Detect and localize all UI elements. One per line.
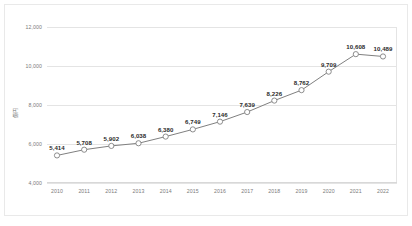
line-series — [47, 27, 397, 183]
data-point-marker — [217, 119, 222, 124]
data-point-label: 8,226 — [267, 90, 283, 97]
data-point-marker — [109, 143, 114, 148]
data-point-marker — [54, 153, 59, 158]
y-tick-label: 6,000 — [29, 141, 42, 147]
x-tick-label: 2015 — [187, 188, 199, 194]
x-tick-label: 2012 — [105, 188, 117, 194]
data-point-label: 6,380 — [158, 126, 174, 133]
data-point-marker — [353, 52, 358, 57]
data-point-marker — [380, 54, 385, 59]
x-tick-label: 2014 — [160, 188, 172, 194]
data-point-marker — [82, 147, 87, 152]
x-tick-label: 2018 — [268, 188, 280, 194]
y-tick-label: 10,000 — [26, 63, 42, 69]
y-tick-label: 8,000 — [29, 102, 42, 108]
y-tick-label: 12,000 — [26, 24, 42, 30]
data-point-label: 9,709 — [321, 61, 337, 68]
x-tick-label: 2019 — [296, 188, 308, 194]
data-point-marker — [163, 134, 168, 139]
x-tick-label: 2020 — [323, 188, 335, 194]
plot-area: 4,0006,0008,00010,00012,000 5,4145,7085,… — [47, 27, 397, 183]
x-axis-ticks: 2010201120122013201420152016201720182019… — [47, 186, 397, 200]
x-tick-label: 2021 — [350, 188, 362, 194]
x-tick-label: 2016 — [214, 188, 226, 194]
data-point-label: 7,639 — [239, 101, 255, 108]
x-tick-label: 2010 — [51, 188, 63, 194]
gridline — [47, 183, 397, 184]
x-tick-label: 2017 — [241, 188, 253, 194]
x-tick-label: 2022 — [377, 188, 389, 194]
data-point-label: 7,146 — [212, 111, 228, 118]
data-point-label: 10,608 — [346, 43, 365, 50]
data-point-marker — [272, 98, 277, 103]
data-point-label: 5,902 — [104, 135, 120, 142]
data-point-label: 6,038 — [131, 132, 147, 139]
data-point-marker — [299, 88, 304, 93]
chart-figure: 億円 4,0006,0008,00010,00012,000 5,4145,70… — [0, 0, 412, 226]
x-tick-label: 2011 — [78, 188, 90, 194]
data-point-label: 6,749 — [185, 118, 201, 125]
data-point-marker — [245, 109, 250, 114]
data-point-label: 10,489 — [374, 45, 393, 52]
data-point-label: 5,414 — [49, 144, 65, 151]
x-tick-label: 2013 — [133, 188, 145, 194]
y-tick-label: 4,000 — [29, 180, 42, 186]
data-point-marker — [326, 69, 331, 74]
data-point-label: 5,708 — [76, 139, 92, 146]
data-point-label: 8,762 — [294, 79, 310, 86]
y-axis-title: 億円 — [11, 108, 18, 119]
data-point-marker — [190, 127, 195, 132]
data-point-marker — [136, 141, 141, 146]
